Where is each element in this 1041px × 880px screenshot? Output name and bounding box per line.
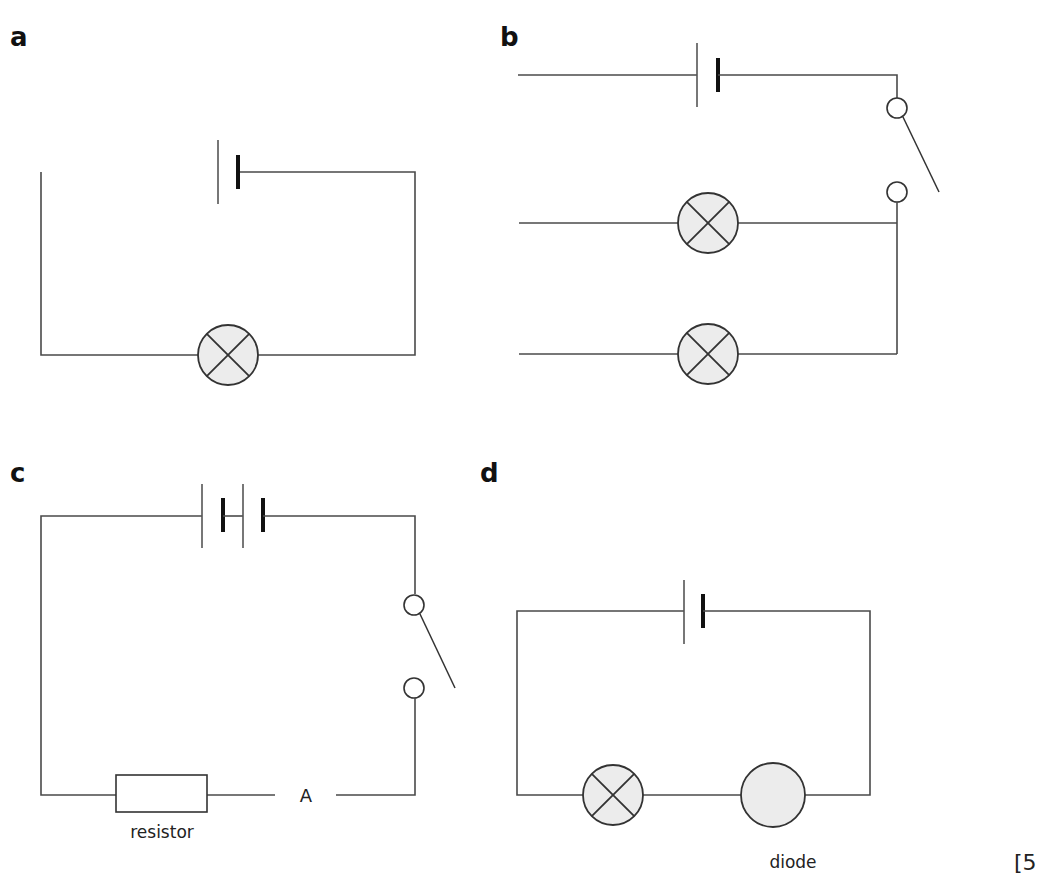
- diode-label: diode: [769, 852, 816, 872]
- wire: [336, 698, 415, 795]
- panel-label-a: a: [10, 22, 28, 52]
- wire: [41, 172, 198, 355]
- lamp-icon: [583, 765, 643, 825]
- cell-icon: [218, 140, 238, 204]
- panel-b: b: [500, 22, 939, 384]
- wire: [238, 172, 415, 355]
- marks-label: [5: [1014, 850, 1037, 875]
- lamp-icon: [678, 193, 738, 253]
- circuit-diagrams: a b: [0, 0, 1041, 880]
- resistor-label: resistor: [130, 822, 194, 842]
- lamp-icon: [678, 324, 738, 384]
- cell-icon: [684, 580, 703, 644]
- panel-c: c A resistor: [10, 458, 455, 842]
- wire: [718, 75, 897, 98]
- cell-icon: [697, 43, 718, 107]
- switch-icon: [887, 98, 939, 202]
- panel-d: d diode: [480, 458, 870, 872]
- panel-label-b: b: [500, 22, 519, 52]
- panel-a: a: [10, 22, 415, 385]
- panel-label-c: c: [10, 458, 25, 488]
- diode-icon: [741, 763, 805, 827]
- ammeter-label: A: [300, 785, 313, 806]
- wire: [263, 516, 415, 594]
- battery-icon: [202, 484, 263, 548]
- wire: [41, 516, 202, 795]
- lamp-icon: [198, 325, 258, 385]
- switch-icon: [404, 595, 455, 698]
- panel-label-d: d: [480, 458, 499, 488]
- resistor-icon: [116, 775, 207, 812]
